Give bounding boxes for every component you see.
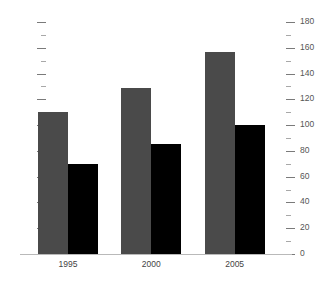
axis-tick-label: 40: [300, 196, 309, 207]
tick-mark-major: [286, 125, 295, 126]
bar-group: [38, 22, 98, 254]
axis-tick-label: 100: [300, 119, 314, 130]
x-axis-labels: 199520002005: [30, 258, 280, 274]
bar: [38, 112, 68, 254]
bar-group: [121, 22, 181, 254]
plot-area: [30, 22, 280, 254]
tick-mark-minor: [286, 164, 291, 165]
y-axis-right: 020406080100120140160180: [286, 22, 332, 254]
tick-mark-major: [286, 151, 295, 152]
tick-mark-major: [286, 74, 295, 75]
bar: [151, 144, 181, 254]
bar: [205, 52, 235, 254]
tick-mark-major: [286, 202, 295, 203]
tick-mark-minor: [286, 35, 291, 36]
tick-mark-minor: [286, 215, 291, 216]
axis-tick-label: 80: [300, 145, 309, 156]
tick-mark-minor: [286, 112, 291, 113]
axis-tick-label: 120: [300, 93, 314, 104]
axis-tick-label: 20: [300, 222, 309, 233]
tick-mark-minor: [286, 241, 291, 242]
tick-mark-minor: [286, 138, 291, 139]
tick-mark-minor: [286, 86, 291, 87]
tick-mark-minor: [286, 61, 291, 62]
bar: [235, 125, 265, 254]
axis-tick-label: 0: [300, 248, 305, 259]
x-axis-label: 2005: [205, 258, 265, 270]
tick-mark-major: [286, 99, 295, 100]
axis-tick-label: 60: [300, 171, 309, 182]
tick-mark-major: [286, 22, 295, 23]
axis-tick-label: 180: [300, 16, 314, 27]
bar: [121, 88, 151, 254]
x-axis-label: 2000: [121, 258, 181, 270]
tick-mark-major: [286, 228, 295, 229]
tick-mark-major: [286, 177, 295, 178]
tick-mark-minor: [286, 190, 291, 191]
x-axis-label: 1995: [38, 258, 98, 270]
axis-tick-label: 160: [300, 42, 314, 53]
tick-mark-major: [286, 48, 295, 49]
axis-tick-label: 140: [300, 68, 314, 79]
bar-group: [205, 22, 265, 254]
bar: [68, 164, 98, 254]
bar-chart: 020406080100120140160180 199520002005: [0, 0, 332, 282]
x-axis-baseline: [20, 254, 292, 255]
